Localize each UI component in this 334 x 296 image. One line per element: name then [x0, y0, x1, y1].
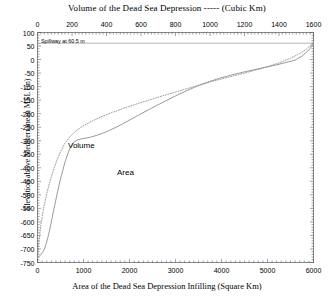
y-axis-tick--100: -100	[7, 83, 35, 90]
y-axis-tick--400: -400	[7, 164, 35, 171]
y-axis-tick--200: -200	[7, 110, 35, 117]
y-axis-tick--700: -700	[7, 245, 35, 252]
bottom-axis-tick-1000: 1000	[76, 267, 92, 274]
volume-curve	[38, 43, 313, 257]
bottom-axis-tick-0: 0	[36, 267, 40, 274]
spillway-annotation-label: Spillway at 60.5 m	[41, 38, 85, 44]
top-axis-tick-1000: 1000	[202, 21, 218, 28]
top-axis-tick-1600: 1600	[306, 21, 322, 28]
top-axis-tick-800: 800	[170, 21, 182, 28]
y-axis-tick--300: -300	[7, 137, 35, 144]
chart-container: Volume of the Dead Sea Depression ----- …	[0, 0, 334, 296]
bottom-axis-tick-2000: 2000	[122, 267, 138, 274]
y-axis-tick--250: -250	[7, 124, 35, 131]
area-curve-label: Area	[117, 168, 134, 177]
y-axis-tick-50: 50	[7, 43, 35, 50]
y-axis-tick-0: 0	[7, 56, 35, 63]
top-axis-tick-600: 600	[135, 21, 147, 28]
top-axis-tick-1200: 1200	[237, 21, 253, 28]
y-axis-tick-100: 100	[7, 29, 35, 36]
y-axis-tick--600: -600	[7, 218, 35, 225]
top-axis-tick-400: 400	[101, 21, 113, 28]
top-axis-tick-200: 200	[66, 21, 78, 28]
y-axis-tick--150: -150	[7, 97, 35, 104]
y-axis-tick--550: -550	[7, 205, 35, 212]
y-axis-tick--500: -500	[7, 191, 35, 198]
area-curve	[38, 43, 314, 257]
volume-curve-label: Volume	[68, 141, 95, 150]
y-axis-tick--50: -50	[7, 70, 35, 77]
bottom-axis-tick-4000: 4000	[214, 267, 230, 274]
y-axis-tick--650: -650	[7, 232, 35, 239]
top-axis-tick-1400: 1400	[271, 21, 287, 28]
bottom-axis-tick-5000: 5000	[260, 267, 276, 274]
bottom-axis-tick-3000: 3000	[168, 267, 184, 274]
y-axis-tick--350: -350	[7, 151, 35, 158]
plot-area	[0, 0, 334, 296]
y-axis-tick--750: -750	[7, 259, 35, 266]
bottom-axis-tick-6000: 6000	[306, 267, 322, 274]
y-axis-tick--450: -450	[7, 178, 35, 185]
top-axis-tick-0: 0	[36, 21, 40, 28]
